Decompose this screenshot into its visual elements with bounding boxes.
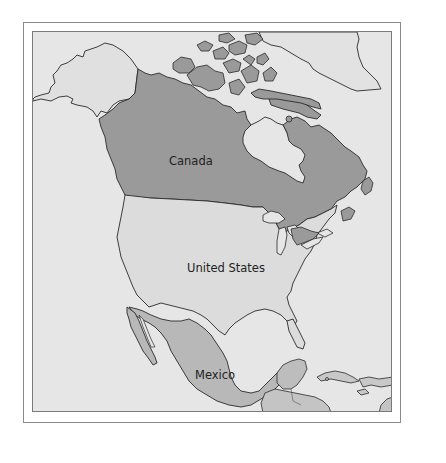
label-united-states: United States [187,261,265,275]
map-frame: Canada United States Mexico [32,31,392,412]
north-america-map [33,32,392,412]
label-canada: Canada [169,154,213,168]
hudson-island [286,116,292,122]
label-mexico: Mexico [195,368,235,382]
